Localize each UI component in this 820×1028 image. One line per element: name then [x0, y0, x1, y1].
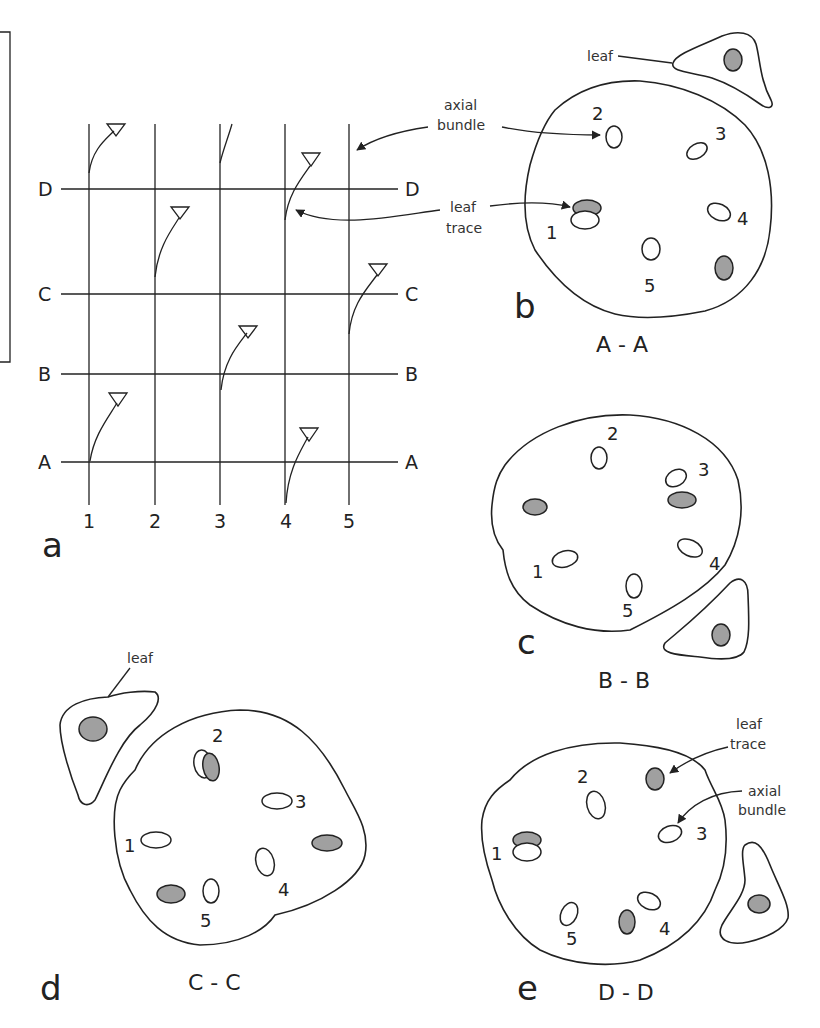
e-bundle-5: 5	[566, 928, 577, 949]
e-bundle-4: 4	[659, 918, 670, 939]
c-bundle-1: 1	[532, 561, 543, 582]
col-label-5: 5	[343, 510, 355, 532]
row-label-d-right: D	[405, 178, 420, 200]
panel-e-axial-label-2: bundle	[738, 802, 786, 818]
d-bundle-2: 2	[212, 725, 223, 746]
panel-a-letter: a	[42, 525, 63, 565]
panel-e-section: D - D	[598, 980, 654, 1005]
e-bundle-3: 3	[696, 823, 707, 844]
b-bundle-5: 5	[644, 275, 655, 296]
panel-c-stem-section	[492, 415, 742, 631]
panel-c-letter: c	[517, 622, 536, 662]
d-bundle-3: 3	[295, 791, 306, 812]
col-label-3: 3	[214, 510, 226, 532]
panel-b-axial-label-1: axial	[444, 97, 477, 113]
row-label-b-right: B	[405, 363, 418, 385]
panel-b-letter: b	[514, 286, 536, 326]
panel-b-section: A - A	[596, 332, 648, 357]
b-bundle-1: 1	[546, 222, 557, 243]
d-bundle-5: 5	[200, 910, 211, 931]
panel-e-leaf	[720, 842, 788, 943]
row-label-b: B	[38, 363, 51, 385]
panel-b-leaf: leaf	[587, 33, 772, 108]
c-bundle-2: 2	[607, 423, 618, 444]
c-bundle-5: 5	[622, 600, 633, 621]
e-bundle-2: 2	[577, 766, 588, 787]
d-bundle-4: 4	[278, 879, 289, 900]
panel-d-leaf-label: leaf	[127, 650, 154, 666]
partial-frame	[0, 32, 10, 362]
panel-d-letter: d	[40, 968, 62, 1008]
panel-b-leaftrace-label-1: leaf	[450, 199, 477, 215]
panel-d-section: C - C	[188, 970, 241, 995]
panel-d-leaf: leaf	[60, 650, 158, 805]
panel-b-leaftrace-label-2: trace	[446, 220, 482, 236]
row-label-a-right: A	[405, 451, 418, 473]
panel-c-leaf	[664, 579, 749, 659]
panel-d-stem-section	[114, 710, 366, 945]
col-label-1: 1	[83, 510, 95, 532]
col-label-4: 4	[280, 510, 292, 532]
b-bundle-3: 3	[715, 123, 726, 144]
panel-e-stem-section	[482, 743, 727, 964]
b-bundle-2: 2	[592, 103, 603, 124]
panel-a-row-labels-right: D C B A	[405, 178, 420, 473]
leaf-trace-diagram: D C B A D C B A 1 2 3 4 5 a leaf axial b…	[0, 0, 820, 1028]
panel-b-leaf-label: leaf	[587, 48, 614, 64]
panel-e-annotations: leaf trace axial bundle	[670, 716, 786, 823]
panel-c-section: B - B	[598, 668, 650, 693]
c-bundle-3: 3	[698, 459, 709, 480]
panel-a-grid	[61, 124, 398, 505]
b-bundle-4: 4	[737, 208, 748, 229]
row-label-c-right: C	[405, 283, 418, 305]
e-bundle-1: 1	[491, 843, 502, 864]
panel-e-letter: e	[517, 968, 538, 1008]
row-label-c: C	[38, 283, 51, 305]
panel-e-leaftrace-label-2: trace	[730, 736, 766, 752]
row-label-a: A	[38, 451, 51, 473]
row-label-d: D	[38, 178, 53, 200]
panel-e-leaftrace-label-1: leaf	[736, 716, 763, 732]
panel-b-axial-label-2: bundle	[437, 117, 485, 133]
panel-a-row-labels-left: D C B A	[38, 178, 53, 473]
panel-a-annotation-arrows	[296, 127, 440, 220]
panel-a-column-labels: 1 2 3 4 5	[83, 510, 355, 532]
c-bundle-4: 4	[709, 553, 720, 574]
d-bundle-1: 1	[124, 835, 135, 856]
panel-e-axial-label-1: axial	[748, 783, 781, 799]
col-label-2: 2	[149, 510, 161, 532]
